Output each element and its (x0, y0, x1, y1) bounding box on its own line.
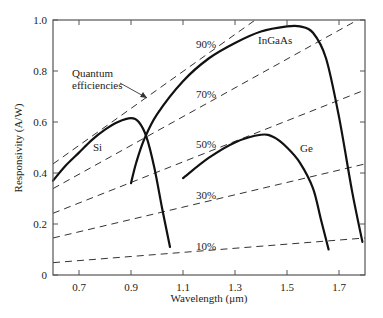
y-tick-label: 0.2 (33, 218, 47, 230)
curve-ingaas (131, 26, 362, 242)
label-ingaas: InGaAs (258, 34, 292, 46)
y-tick-label: 0.6 (33, 116, 47, 128)
y-tick-label: 0.8 (33, 65, 47, 77)
annotation-quantum: Quantum (72, 67, 113, 79)
y-tick-label: 1.0 (33, 14, 47, 26)
annotation-efficiencies: efficiencies (72, 79, 123, 91)
label-qe-90: 90% (196, 38, 216, 50)
y-tick-label: 0 (42, 269, 48, 281)
y-axis-label: Responsivity (A/W) (12, 103, 25, 192)
x-tick-label: 0.9 (124, 281, 138, 293)
x-tick-label: 0.7 (72, 281, 86, 293)
label-qe-30: 30% (196, 189, 216, 201)
responsivity-chart: 0.70.91.11.31.51.7 00.20.40.60.81.0 Wave… (0, 0, 383, 318)
curve-si (53, 118, 170, 247)
label-qe-10: 10% (196, 240, 216, 252)
x-axis-label: Wavelength (μm) (171, 292, 248, 305)
label-si: Si (93, 141, 102, 153)
y-tick-label: 0.4 (33, 167, 47, 179)
x-tick-label: 1.7 (332, 281, 346, 293)
label-qe-50: 50% (196, 138, 216, 150)
x-tick-label: 1.5 (280, 281, 294, 293)
qe-line-90 (53, 20, 255, 164)
label-ge: Ge (300, 142, 313, 154)
label-qe-70: 70% (196, 88, 216, 100)
